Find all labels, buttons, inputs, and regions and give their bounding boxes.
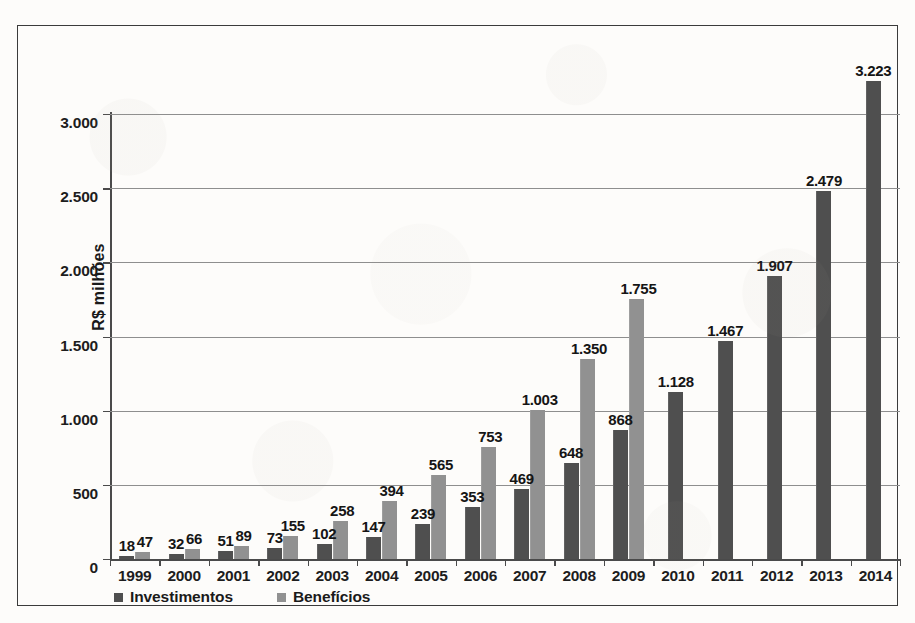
x-tick-label: 2006 bbox=[464, 567, 497, 585]
bar-investimentos bbox=[169, 554, 184, 559]
x-tick-mark bbox=[406, 559, 407, 566]
y-tick-mark bbox=[103, 114, 110, 115]
y-tick-mark bbox=[103, 337, 110, 338]
x-tick-mark bbox=[703, 559, 704, 566]
y-tick-label-text: 1.000 bbox=[60, 411, 98, 429]
bar-beneficios bbox=[185, 549, 200, 559]
x-tick-label: 2007 bbox=[513, 567, 546, 585]
x-tick-label: 2013 bbox=[809, 567, 842, 585]
gridline bbox=[110, 188, 900, 189]
bar-value-label: 18 bbox=[119, 537, 135, 554]
y-tick-mark bbox=[103, 188, 110, 189]
bar-value-label: 89 bbox=[235, 527, 251, 544]
bar-investimentos bbox=[668, 392, 683, 559]
bar-value-label: 155 bbox=[281, 517, 305, 534]
y-tick-label-text: 3.000 bbox=[60, 114, 98, 132]
y-tick-label-text: 1.500 bbox=[60, 337, 98, 355]
x-tick-mark bbox=[653, 559, 654, 566]
x-tick-mark bbox=[505, 559, 506, 566]
bar-investimentos bbox=[415, 524, 430, 559]
x-tick-label: 2005 bbox=[414, 567, 447, 585]
bar-beneficios bbox=[135, 552, 150, 559]
x-tick-mark bbox=[554, 559, 555, 566]
x-tick-label: 2012 bbox=[760, 567, 793, 585]
plot-area: 1847326651897315510225814739423956535375… bbox=[110, 114, 900, 559]
x-tick-mark bbox=[159, 559, 160, 566]
bar-beneficios bbox=[629, 299, 644, 559]
bar-value-label: 469 bbox=[510, 470, 534, 487]
x-tick-label: 1999 bbox=[118, 567, 151, 585]
y-tick-label-text: 500 bbox=[73, 485, 98, 503]
x-tick-label: 2009 bbox=[612, 567, 645, 585]
bar-value-label: 239 bbox=[411, 505, 435, 522]
legend-label: Investimentos bbox=[130, 588, 233, 606]
y-tick-label-text: 2.500 bbox=[60, 188, 98, 206]
bar-value-label: 1.907 bbox=[757, 257, 793, 274]
x-tick-mark bbox=[801, 559, 802, 566]
bar-investimentos bbox=[613, 430, 628, 559]
bar-value-label: 47 bbox=[137, 533, 153, 550]
y-tick-mark bbox=[103, 262, 110, 263]
bar-investimentos bbox=[465, 507, 480, 559]
y-tick-mark bbox=[103, 559, 110, 560]
bar-investimentos bbox=[866, 81, 881, 559]
legend-item-investimentos[interactable]: Investimentos bbox=[114, 588, 233, 606]
x-tick-label: 2001 bbox=[217, 567, 250, 585]
gridline bbox=[110, 114, 900, 115]
bar-value-label: 565 bbox=[429, 456, 453, 473]
bar-value-label: 1.350 bbox=[571, 340, 607, 357]
bar-value-label: 1.128 bbox=[658, 373, 694, 390]
x-tick-mark bbox=[357, 559, 358, 566]
bar-value-label: 102 bbox=[312, 525, 336, 542]
bar-value-label: 1.467 bbox=[707, 322, 743, 339]
bar-beneficios bbox=[283, 536, 298, 559]
x-tick-mark bbox=[900, 559, 901, 566]
x-tick-mark bbox=[209, 559, 210, 566]
bar-value-label: 868 bbox=[608, 411, 632, 428]
bar-value-label: 1.003 bbox=[522, 391, 558, 408]
bar-value-label: 1.755 bbox=[620, 280, 656, 297]
figure-frame: R$ milhões 05001.0001.5002.0002.5003.000… bbox=[17, 25, 898, 606]
x-tick-label: 2003 bbox=[316, 567, 349, 585]
y-tick-mark bbox=[103, 411, 110, 412]
bar-value-label: 51 bbox=[217, 532, 233, 549]
bar-value-label: 66 bbox=[186, 530, 202, 547]
bar-investimentos bbox=[317, 544, 332, 559]
bar-beneficios bbox=[234, 546, 249, 559]
bar-value-label: 2.479 bbox=[806, 172, 842, 189]
bar-investimentos bbox=[218, 551, 233, 559]
x-tick-mark bbox=[308, 559, 309, 566]
x-tick-label: 2011 bbox=[711, 567, 743, 585]
chart-screenshot: R$ milhões 05001.0001.5002.0002.5003.000… bbox=[0, 0, 915, 623]
x-tick-mark bbox=[110, 559, 111, 566]
x-tick-mark bbox=[456, 559, 457, 566]
x-tick-label: 2004 bbox=[365, 567, 398, 585]
legend-label: Benefícios bbox=[293, 588, 370, 606]
bar-value-label: 258 bbox=[330, 502, 354, 519]
x-tick-label: 2000 bbox=[167, 567, 200, 585]
y-tick-label-text: 2.000 bbox=[60, 262, 98, 280]
x-tick-mark bbox=[604, 559, 605, 566]
bar-value-label: 32 bbox=[168, 535, 184, 552]
x-tick-label: 2010 bbox=[661, 567, 694, 585]
legend-item-beneficios[interactable]: Benefícios bbox=[277, 588, 370, 606]
x-tick-label: 2008 bbox=[562, 567, 595, 585]
bar-investimentos bbox=[366, 537, 381, 559]
bar-investimentos bbox=[119, 556, 134, 559]
legend-swatch-icon bbox=[277, 593, 286, 602]
bar-investimentos bbox=[564, 463, 579, 559]
bar-value-label: 3.223 bbox=[855, 62, 891, 79]
bar-value-label: 753 bbox=[478, 428, 502, 445]
bar-value-label: 353 bbox=[460, 488, 484, 505]
x-tick-mark bbox=[851, 559, 852, 566]
chart-legend: InvestimentosBenefícios bbox=[114, 588, 370, 606]
bar-investimentos bbox=[767, 276, 782, 559]
y-tick-mark bbox=[103, 485, 110, 486]
x-tick-label: 2002 bbox=[266, 567, 299, 585]
bar-investimentos bbox=[718, 341, 733, 559]
x-tick-mark bbox=[752, 559, 753, 566]
x-tick-label: 2014 bbox=[859, 567, 892, 585]
bar-investimentos bbox=[514, 489, 529, 559]
x-tick-mark bbox=[258, 559, 259, 566]
bar-value-label: 394 bbox=[379, 482, 403, 499]
